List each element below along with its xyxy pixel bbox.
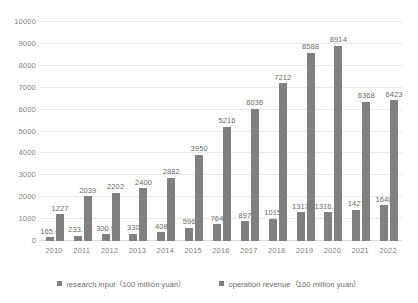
bar-value-label: 2400	[135, 179, 152, 187]
bar-value-label: 408	[155, 223, 168, 231]
bar-revenue	[139, 188, 147, 241]
bar-revenue	[279, 83, 287, 241]
bar-value-label: 5216	[218, 117, 235, 125]
bar-group: 8976036	[239, 22, 259, 241]
y-axis-tick-label: 10000	[0, 18, 36, 26]
bar-group: 165.61227	[44, 22, 64, 241]
bar-group: 14276368	[350, 22, 370, 241]
bar-value-label: 596	[183, 218, 196, 226]
bar-revenue	[334, 46, 342, 241]
bar-research	[241, 221, 249, 241]
bar-value-label: 1227	[51, 205, 68, 213]
bar-group: 7645216	[211, 22, 231, 241]
bar-group: 16406423	[378, 22, 398, 241]
bar-value-label: 2202	[107, 183, 124, 191]
legend-item[interactable]: research input（100 million yuan）	[57, 278, 185, 289]
bar-group: 4082882	[155, 22, 175, 241]
bar-revenue	[390, 100, 398, 241]
bar-group: 233.72039	[72, 22, 92, 241]
bar-value-label: 2882	[163, 168, 180, 176]
bar-research	[269, 219, 277, 241]
bar-research	[380, 205, 388, 241]
chart-legend: research input（100 million yuan）operatio…	[0, 278, 418, 289]
y-axis-tick-label: 1000	[0, 215, 36, 223]
legend-item-label: operation revenue（100 million yuan）	[228, 278, 360, 289]
bar-research	[213, 224, 221, 241]
legend-swatch-icon	[57, 281, 62, 286]
bar-revenue	[112, 193, 120, 241]
bar-value-label: 3950	[191, 145, 208, 153]
bar-research	[157, 232, 165, 241]
y-axis-tick-label: 2000	[0, 193, 36, 201]
bar-research	[46, 237, 54, 241]
bar-revenue	[362, 102, 370, 241]
bar-revenue	[195, 155, 203, 242]
bar-research	[324, 212, 332, 241]
bar-revenue	[167, 178, 175, 241]
bar-research	[185, 228, 193, 241]
legend-item-label: research input（100 million yuan）	[66, 278, 185, 289]
bar-value-label: 897	[238, 212, 251, 220]
bar-revenue	[56, 214, 64, 241]
y-axis-tick-label: 7000	[0, 84, 36, 92]
x-axis-tick-label: 2022	[366, 247, 410, 255]
y-axis-tick-label: 6000	[0, 106, 36, 114]
bar-value-label: 8914	[330, 36, 347, 44]
bar-group: 10157212	[267, 22, 287, 241]
legend-item[interactable]: operation revenue（100 million yuan）	[219, 278, 360, 289]
bar-research	[352, 210, 360, 241]
bar-group: 3302400	[127, 22, 147, 241]
bar-revenue	[251, 109, 259, 241]
bar-value-label: 764	[211, 215, 224, 223]
bar-research	[297, 212, 305, 241]
bar-revenue	[84, 196, 92, 241]
y-axis-tick-label: 5000	[0, 128, 36, 136]
bar-value-label: 8588	[302, 43, 319, 51]
bar-chart: 165.61227233.72039300.922023302400408288…	[0, 0, 418, 303]
bar-revenue	[307, 53, 315, 241]
bar-value-label: 330	[127, 224, 140, 232]
y-axis-tick-label: 8000	[0, 62, 36, 70]
bar-revenue	[223, 127, 231, 241]
bar-group: 13178588	[295, 22, 315, 241]
bar-value-label: 6368	[358, 92, 375, 100]
y-axis-tick-label: 3000	[0, 172, 36, 180]
y-axis-tick-label: 0	[0, 237, 36, 245]
bar-group: 5963950	[183, 22, 203, 241]
bar-value-label: 7212	[274, 74, 291, 82]
bar-value-label: 6036	[246, 99, 263, 107]
legend-swatch-icon	[219, 281, 224, 286]
plot-area: 165.61227233.72039300.922023302400408288…	[40, 22, 402, 241]
bar-research	[74, 236, 82, 241]
bar-value-label: 2039	[79, 187, 96, 195]
y-axis-tick-label: 9000	[0, 40, 36, 48]
bar-group: 1316.598914	[322, 22, 342, 241]
bar-group: 300.92202	[100, 22, 120, 241]
y-axis-tick-label: 4000	[0, 150, 36, 158]
bar-research	[129, 234, 137, 241]
bar-research	[102, 234, 110, 241]
bar-value-label: 6423	[386, 91, 403, 99]
